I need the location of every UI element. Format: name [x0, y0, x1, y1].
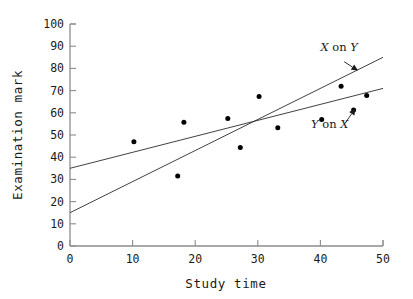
x-axis-title: Study time — [185, 276, 266, 291]
data-point — [175, 174, 180, 179]
x-tick-label-0: 0 — [67, 252, 74, 266]
y-tick-label-40: 40 — [50, 150, 64, 164]
x-tick-label-40: 40 — [313, 252, 327, 266]
data-point — [339, 84, 344, 89]
x-tick-label-30: 30 — [251, 252, 265, 266]
y-tick-label-100: 100 — [43, 17, 64, 31]
annot-connector: on — [319, 117, 341, 131]
y-tick-label-70: 70 — [50, 84, 64, 98]
y-tick-label-0: 0 — [57, 239, 64, 253]
y-tick-label-90: 90 — [50, 39, 64, 53]
data-point — [257, 94, 262, 99]
y-tick-label-20: 20 — [50, 195, 64, 209]
y-tick-label-10: 10 — [50, 217, 64, 231]
y-tick-label-60: 60 — [50, 106, 64, 120]
x-tick-label-10: 10 — [126, 252, 140, 266]
scatter-plot-figure: 0102030405060708090100 01020304050 X on … — [0, 0, 413, 299]
data-point — [275, 125, 280, 130]
data-point — [131, 139, 136, 144]
y-tick-label-30: 30 — [50, 172, 64, 186]
data-point — [181, 120, 186, 125]
x-tick-label-50: 50 — [376, 252, 390, 266]
y-tick-label-50: 50 — [50, 128, 64, 142]
x-tick-label-20: 20 — [188, 252, 202, 266]
y-axis-title: Examination mark — [10, 70, 25, 200]
y-on-x-annotation: Y on X — [311, 117, 349, 131]
data-point — [225, 116, 230, 121]
data-point — [238, 145, 243, 150]
annot-connector: on — [329, 40, 351, 54]
y-tick-label-80: 80 — [50, 61, 64, 75]
x-on-y-annotation: X on Y — [319, 40, 359, 54]
data-point — [364, 93, 369, 98]
